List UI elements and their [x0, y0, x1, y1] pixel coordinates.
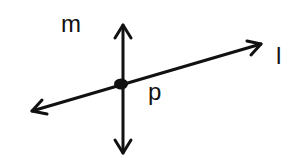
line-l — [32, 41, 261, 114]
label-l: l — [276, 42, 281, 69]
point-p — [114, 79, 128, 90]
label-m: m — [61, 10, 81, 37]
label-p: p — [148, 78, 161, 105]
intersecting-lines-diagram: m l p — [0, 0, 301, 159]
